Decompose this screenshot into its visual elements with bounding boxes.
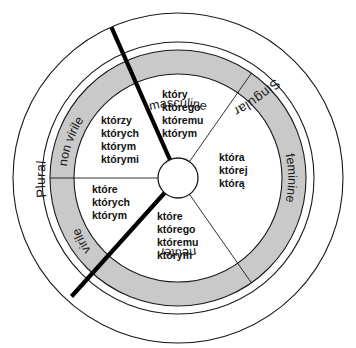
form-item: której [219,164,248,176]
form-item: którym [157,249,192,261]
form-item: którym [92,209,127,221]
form-item: które [92,183,118,195]
form-item: który [162,88,188,100]
outer-ring-label-plural: Plural [33,160,49,199]
form-item: którego [157,223,196,235]
form-item: których [101,127,139,139]
sector-forms-feminine-singular: która której którą [219,151,248,189]
form-item: które [157,210,183,222]
form-item: którymi [101,153,139,165]
form-item: których [92,196,130,208]
form-item: którego [162,101,201,113]
declension-wheel-figure: Singular Plural masculine feminine neute… [0,0,356,348]
form-item: któremu [162,114,203,126]
form-item: którym [101,140,136,152]
form-item: którym [162,127,197,139]
center-hub [158,158,198,198]
form-item: która [219,151,245,163]
form-item: któremu [157,236,198,248]
form-item: którą [219,177,245,189]
form-item: którzy [101,114,132,126]
wheel-diagram: Singular Plural masculine feminine neute… [0,0,356,348]
